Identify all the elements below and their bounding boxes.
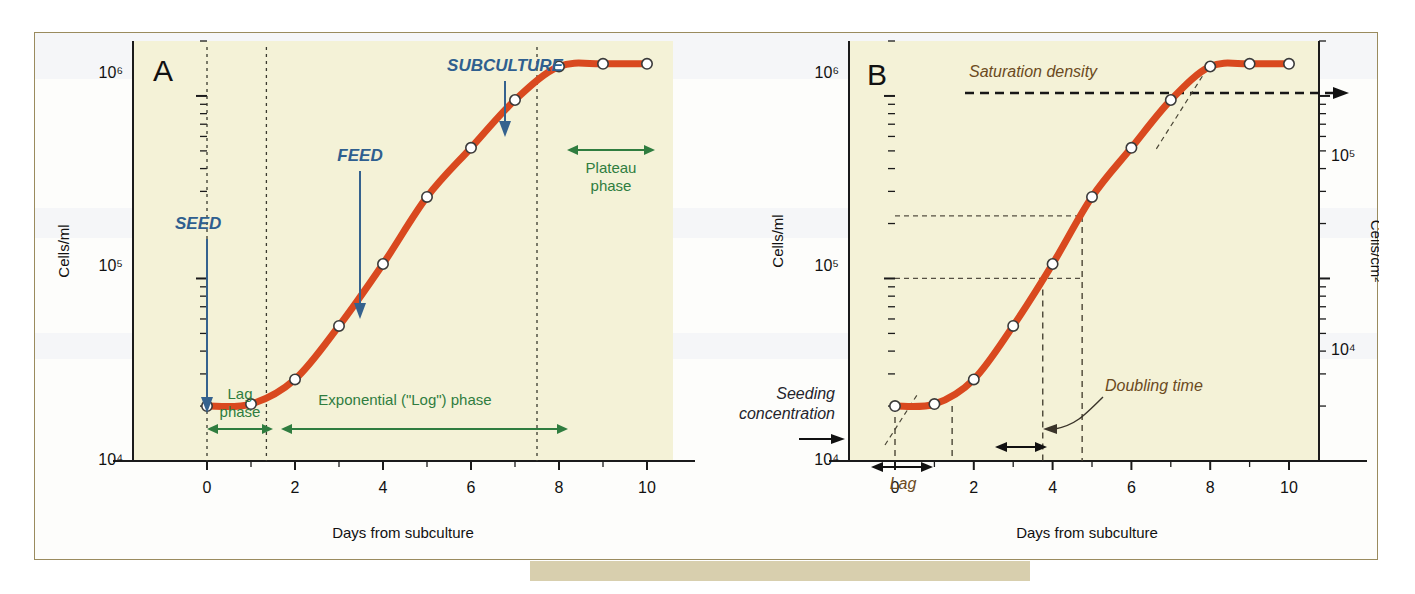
x-ticklabel: 0	[203, 479, 212, 496]
data-point-marker	[510, 95, 520, 105]
data-point-marker	[1244, 59, 1254, 69]
x-ticklabel: 4	[1048, 479, 1057, 496]
data-point-marker	[1126, 143, 1136, 153]
annotation-lag-phase-line1: Lag	[227, 385, 252, 402]
y-ticklabel-1e5-b: 10⁵	[815, 257, 839, 274]
annotation-seed-label: SEED	[175, 214, 221, 233]
x-ticklabel: 8	[1206, 479, 1215, 496]
annotation-lag-arrowhead-right-b	[921, 462, 933, 472]
data-point-marker	[378, 259, 388, 269]
data-point-marker	[466, 143, 476, 153]
annotation-feed-label: FEED	[337, 146, 382, 165]
data-point-marker	[422, 192, 432, 202]
y-ticklabel-1e6-a: 10⁶	[99, 64, 123, 81]
annotation-exponential-phase-label: Exponential ("Log") phase	[318, 391, 491, 408]
annotation-saturation-density-label: Saturation density	[969, 63, 1098, 80]
annotation-doubling-time-label: Doubling time	[1105, 377, 1203, 394]
x-ticklabel: 10	[1280, 479, 1298, 496]
x-ticklabel: 2	[969, 479, 978, 496]
y-ticklabel-1e5-a: 10⁵	[99, 257, 123, 274]
annotation-lag-label-b: Lag	[890, 475, 917, 492]
data-point-marker	[334, 321, 344, 331]
x-ticklabel: 8	[555, 479, 564, 496]
annotation-subculture-label: SUBCULTURE	[447, 56, 564, 75]
y-ticklabel-1e4-a: 10⁴	[98, 451, 123, 468]
panel-a: A 10⁶ 10⁵ 10⁴ Cells/ml 0246810 Days from…	[35, 33, 707, 561]
x-ticklabels-a: 0246810	[203, 479, 656, 496]
annotation-plateau-line1: Plateau	[586, 159, 637, 176]
x-ticklabel: 4	[379, 479, 388, 496]
y-ticklabel-1e6-b: 10⁶	[815, 64, 839, 81]
data-point-marker	[1008, 321, 1018, 331]
y-ticklabel-right-1e5-b: 10⁵	[1331, 147, 1355, 164]
x-ticklabel: 6	[1127, 479, 1136, 496]
x-ticklabel: 2	[291, 479, 300, 496]
y-ticklabel-right-1e4-b: 10⁴	[1331, 341, 1356, 358]
y-axis-title-left-b: Cells/ml	[769, 214, 786, 267]
panel-letter-a: A	[153, 54, 173, 87]
figure-frame: A 10⁶ 10⁵ 10⁴ Cells/ml 0246810 Days from…	[34, 32, 1378, 560]
x-ticklabel: 6	[467, 479, 476, 496]
data-point-marker	[598, 59, 608, 69]
y-ticklabel-1e4-b: 10⁴	[814, 451, 839, 468]
data-point-marker	[929, 399, 939, 409]
data-point-marker	[290, 374, 300, 384]
data-point-marker	[1087, 192, 1097, 202]
annotation-lag-phase-line2: phase	[220, 403, 261, 420]
x-ticklabel: 10	[638, 479, 656, 496]
page-decoration-bar	[530, 561, 1030, 581]
panel-letter-b: B	[867, 58, 887, 91]
x-axis-title-a: Days from subculture	[332, 524, 474, 541]
data-point-marker	[969, 374, 979, 384]
data-point-marker	[1205, 61, 1215, 71]
data-point-marker	[642, 59, 652, 69]
annotation-lag-arrowhead-left-b	[871, 462, 883, 472]
y-axis-title-a: Cells/ml	[55, 224, 72, 277]
panel-b: Saturation density B 10⁶ 10⁵ 10⁴ Cells/m…	[707, 33, 1379, 561]
x-axis-title-b: Days from subculture	[1016, 524, 1158, 541]
annotation-seeding-line1: Seeding	[776, 385, 835, 402]
annotation-seeding-arrowhead	[831, 434, 845, 444]
saturation-density-arrowhead	[1333, 87, 1349, 99]
y-axis-title-right-b: Cells/cm²	[1368, 220, 1379, 283]
annotation-seeding-line2: concentration	[739, 405, 835, 422]
x-ticklabels-b: 0246810	[891, 479, 1298, 496]
axis-ticks-right-b	[1319, 41, 1330, 461]
data-point-marker	[890, 401, 900, 411]
plot-background-b	[849, 41, 1319, 461]
data-point-marker	[1284, 59, 1294, 69]
data-point-marker	[1166, 95, 1176, 105]
annotation-plateau-line2: phase	[591, 177, 632, 194]
data-point-marker	[1047, 259, 1057, 269]
